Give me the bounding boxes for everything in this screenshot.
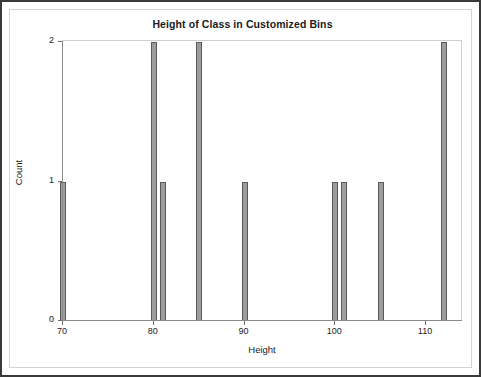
x-tick-label: 90: [224, 326, 264, 336]
x-axis-line: [62, 320, 462, 321]
x-axis-title: Height: [62, 344, 462, 355]
x-tick-label: 110: [405, 326, 445, 336]
x-tick-mark: [425, 321, 426, 325]
chart-title: Height of Class in Customized Bins: [2, 18, 481, 30]
bar: [341, 182, 347, 322]
y-tick-mark: [58, 41, 62, 42]
y-tick-mark: [58, 181, 62, 182]
y-tick-label: 2: [38, 35, 54, 45]
bar: [160, 182, 166, 322]
x-tick-mark: [244, 321, 245, 325]
x-tick-label: 80: [133, 326, 173, 336]
y-axis-line: [62, 41, 63, 321]
x-tick-mark: [153, 321, 154, 325]
x-tick-mark: [62, 321, 63, 325]
plot-area: [62, 40, 462, 321]
x-tick-label: 70: [42, 326, 82, 336]
bar: [196, 42, 202, 321]
bar: [151, 42, 157, 321]
bar: [242, 182, 248, 322]
bar: [441, 42, 447, 321]
bar: [60, 182, 66, 322]
y-axis-title: Count: [13, 143, 24, 203]
y-tick-mark: [58, 320, 62, 321]
y-tick-label: 1: [38, 175, 54, 185]
bar: [378, 182, 384, 322]
bar: [332, 182, 338, 322]
x-tick-mark: [334, 321, 335, 325]
x-tick-label: 100: [314, 326, 354, 336]
y-tick-label: 0: [38, 314, 54, 324]
figure-outer-frame: Height of Class in Customized Bins 70809…: [0, 0, 481, 377]
